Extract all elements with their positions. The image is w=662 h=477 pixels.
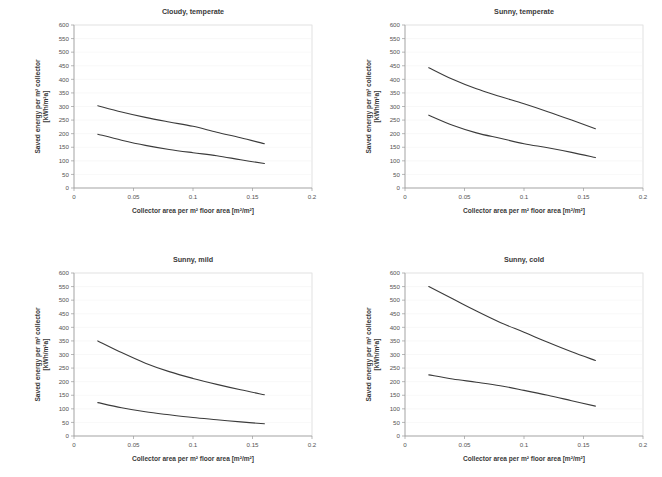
y-tick-label-500: 500 — [390, 296, 401, 303]
x-tick-label-1: 0.05 — [127, 441, 140, 448]
y-tick-label-250: 250 — [59, 364, 70, 371]
y-tick-label-50: 50 — [393, 419, 400, 426]
y-axis-title-line2-2: [kWh/m²a] — [42, 339, 50, 371]
x-tick-label-2: 0.1 — [520, 441, 529, 448]
y-tick-label-550: 550 — [390, 35, 401, 42]
y-tick-label-600: 600 — [390, 21, 401, 28]
chart-svg-0: Cloudy, temperate05010015020025030035040… — [0, 0, 331, 250]
x-tick-label-3: 0.15 — [577, 441, 590, 448]
y-tick-label-500: 500 — [59, 296, 70, 303]
x-tick-label-2: 0.1 — [189, 441, 198, 448]
y-tick-label-400: 400 — [59, 324, 70, 331]
y-tick-label-0: 0 — [66, 432, 70, 439]
chart-panel-sunny-temperate: Sunny, temperate050100150200250300350400… — [331, 0, 662, 250]
y-tick-label-250: 250 — [390, 116, 401, 123]
y-tick-label-600: 600 — [390, 269, 401, 276]
chart-panel-sunny-cold: Sunny, cold05010015020025030035040045050… — [331, 250, 662, 477]
y-tick-label-450: 450 — [59, 310, 70, 317]
y-tick-label-100: 100 — [59, 405, 70, 412]
x-tick-label-4: 0.2 — [308, 441, 317, 448]
chart-svg-2: Sunny, mild05010015020025030035040045050… — [0, 250, 331, 477]
y-tick-label-100: 100 — [390, 405, 401, 412]
y-tick-label-150: 150 — [390, 143, 401, 150]
y-tick-label-0: 0 — [66, 184, 70, 191]
x-tick-label-4: 0.2 — [308, 193, 317, 200]
y-tick-label-450: 450 — [59, 62, 70, 69]
y-tick-label-200: 200 — [59, 378, 70, 385]
chart-title-0: Cloudy, temperate — [162, 7, 224, 16]
y-tick-label-300: 300 — [390, 103, 401, 110]
x-tick-label-3: 0.15 — [246, 441, 259, 448]
x-tick-label-1: 0.05 — [458, 193, 471, 200]
y-tick-label-50: 50 — [62, 171, 69, 178]
y-tick-label-350: 350 — [390, 89, 401, 96]
y-tick-label-50: 50 — [62, 419, 69, 426]
chart-svg-1: Sunny, temperate050100150200250300350400… — [331, 0, 662, 250]
chart-panel-sunny-mild: Sunny, mild05010015020025030035040045050… — [0, 250, 331, 477]
x-tick-label-0: 0 — [72, 441, 76, 448]
chart-title-3: Sunny, cold — [504, 255, 544, 264]
y-tick-label-0: 0 — [397, 432, 401, 439]
y-tick-label-200: 200 — [59, 130, 70, 137]
y-axis-title-line1-2: Saved energy per m² collector — [34, 307, 42, 402]
x-tick-label-3: 0.15 — [577, 193, 590, 200]
y-tick-label-550: 550 — [59, 35, 70, 42]
y-tick-label-550: 550 — [59, 283, 70, 290]
x-axis-title-1: Collector area per m² floor area [m²/m²] — [463, 207, 585, 215]
y-tick-label-0: 0 — [397, 184, 401, 191]
x-axis-title-2: Collector area per m² floor area [m²/m²] — [132, 455, 254, 463]
x-tick-label-0: 0 — [72, 193, 76, 200]
y-tick-label-200: 200 — [390, 130, 401, 137]
y-tick-label-250: 250 — [390, 364, 401, 371]
chart-title-2: Sunny, mild — [173, 255, 213, 264]
y-axis-title-line1-1: Saved energy per m² collector — [365, 59, 373, 154]
y-tick-label-250: 250 — [59, 116, 70, 123]
y-tick-label-150: 150 — [59, 143, 70, 150]
y-tick-label-400: 400 — [390, 324, 401, 331]
y-axis-title-line2-1: [kWh/m²a] — [373, 91, 381, 123]
y-tick-label-350: 350 — [390, 337, 401, 344]
y-tick-label-450: 450 — [390, 310, 401, 317]
y-tick-label-450: 450 — [390, 62, 401, 69]
x-tick-label-0: 0 — [403, 441, 407, 448]
y-axis-title-line2-3: [kWh/m²a] — [373, 339, 381, 371]
y-tick-label-400: 400 — [390, 76, 401, 83]
y-tick-label-100: 100 — [59, 157, 70, 164]
y-tick-label-150: 150 — [390, 391, 401, 398]
chart-panel-cloudy-temperate: Cloudy, temperate05010015020025030035040… — [0, 0, 331, 250]
y-tick-label-300: 300 — [59, 103, 70, 110]
x-tick-label-0: 0 — [403, 193, 407, 200]
y-tick-label-200: 200 — [390, 378, 401, 385]
y-tick-label-300: 300 — [59, 351, 70, 358]
chart-svg-3: Sunny, cold05010015020025030035040045050… — [331, 250, 662, 477]
x-axis-title-0: Collector area per m² floor area [m²/m²] — [132, 207, 254, 215]
x-tick-label-1: 0.05 — [127, 193, 140, 200]
y-axis-title-line1-3: Saved energy per m² collector — [365, 307, 373, 402]
chart-title-1: Sunny, temperate — [494, 7, 554, 16]
x-tick-label-2: 0.1 — [189, 193, 198, 200]
y-tick-label-500: 500 — [59, 48, 70, 55]
y-tick-label-100: 100 — [390, 157, 401, 164]
x-axis-title-3: Collector area per m² floor area [m²/m²] — [463, 455, 585, 463]
chart-grid: Cloudy, temperate05010015020025030035040… — [0, 0, 662, 477]
y-tick-label-300: 300 — [390, 351, 401, 358]
y-tick-label-500: 500 — [390, 48, 401, 55]
x-tick-label-4: 0.2 — [639, 193, 648, 200]
y-axis-title-line1-0: Saved energy per m² collector — [34, 59, 42, 154]
y-tick-label-150: 150 — [59, 391, 70, 398]
x-tick-label-2: 0.1 — [520, 193, 529, 200]
y-tick-label-550: 550 — [390, 283, 401, 290]
x-tick-label-3: 0.15 — [246, 193, 259, 200]
y-tick-label-350: 350 — [59, 337, 70, 344]
x-tick-label-4: 0.2 — [639, 441, 648, 448]
y-tick-label-600: 600 — [59, 21, 70, 28]
y-tick-label-350: 350 — [59, 89, 70, 96]
y-tick-label-50: 50 — [393, 171, 400, 178]
x-tick-label-1: 0.05 — [458, 441, 471, 448]
y-axis-title-line2-0: [kWh/m²a] — [42, 91, 50, 123]
y-tick-label-400: 400 — [59, 76, 70, 83]
y-tick-label-600: 600 — [59, 269, 70, 276]
